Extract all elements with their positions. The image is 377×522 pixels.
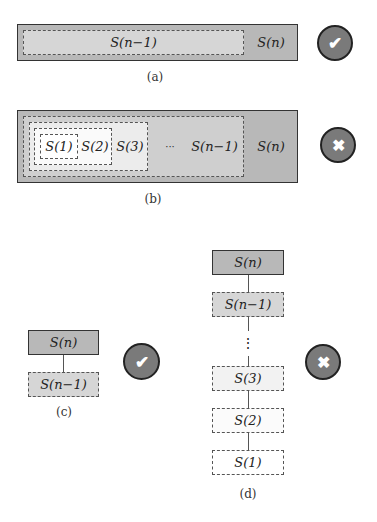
cross-glyph: ✖ [332,136,345,155]
panel-c-node-s-n-1-label: S(n−1) [40,377,87,392]
panel-d-edge-4 [248,391,249,408]
panel-b-caption: (b) [133,192,173,206]
panel-b-label-s-3: S(3) [112,134,148,159]
panel-d-node-s-n: S(n) [212,250,284,275]
panel-d-ellipsis: ⋮ [238,333,258,353]
panel-c-caption: (c) [44,405,84,419]
panel-a-outer-label-text: S(n) [257,35,284,50]
panel-b-label-s-1: S(1) [40,134,78,159]
panel-d-node-s-2: S(2) [212,408,284,433]
panel-a-inner-box-s-n-1: S(n−1) [23,30,244,55]
panel-b-label-s-2: S(2) [78,134,112,159]
panel-c-node-s-n: S(n) [28,330,99,355]
panel-d-node-s-2-label: S(2) [234,413,261,428]
panel-d-edge-5 [248,433,249,450]
panel-b-label-s-n: S(n) [244,134,298,159]
panel-d-edge-1 [248,275,249,292]
panel-b-label-s-n-1: S(n−1) [185,134,244,159]
cross-glyph: ✖ [317,353,330,372]
panel-d-node-s-3: S(3) [212,366,284,391]
panel-d-node-s-3-label: S(3) [234,371,261,386]
panel-b-label-ellipsis: ··· [155,134,185,159]
panel-a-inner-label: S(n−1) [110,35,157,50]
panel-c-edge [63,355,64,372]
check-glyph: ✔ [328,33,342,53]
panel-d-edge-2 [248,317,249,331]
panel-a-outer-label: S(n) [244,30,298,55]
panel-d-node-s-1: S(1) [212,450,284,475]
check-glyph: ✔ [135,352,149,372]
check-icon: ✔ [123,343,160,380]
panel-d-node-s-n-1-label: S(n−1) [225,297,272,312]
panel-d-edge-3 [248,356,249,366]
check-icon: ✔ [317,25,353,61]
panel-d-caption: (d) [228,487,268,501]
panel-c-node-s-n-1: S(n−1) [28,372,99,397]
panel-a-caption: (a) [135,70,175,84]
cross-icon: ✖ [320,127,356,163]
panel-c-node-s-n-label: S(n) [50,335,77,350]
panel-d-node-s-n-1: S(n−1) [212,292,284,317]
panel-d-node-s-n-label: S(n) [234,255,261,270]
panel-d-node-s-1-label: S(1) [234,455,261,470]
cross-icon: ✖ [305,344,341,380]
